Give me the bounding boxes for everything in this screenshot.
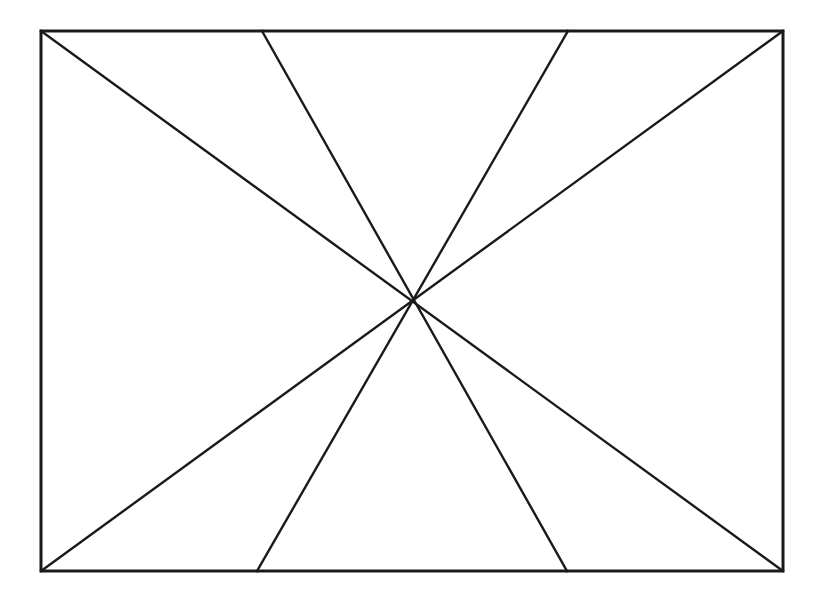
diagram-svg (0, 0, 825, 602)
diagram-canvas (0, 0, 825, 602)
